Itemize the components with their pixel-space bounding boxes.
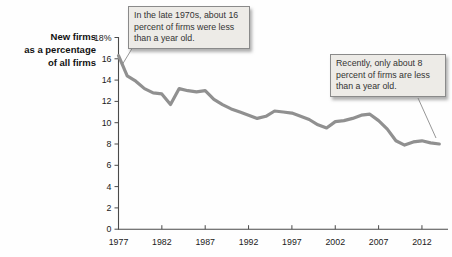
y-tick-label: 6	[107, 160, 112, 170]
x-tick-label: 1982	[152, 237, 172, 247]
y-tick-label: 8	[107, 139, 112, 149]
y-tick-label: 2	[107, 203, 112, 213]
callout-recently: Recently, only about 8 percent of firms …	[330, 54, 446, 97]
y-tick-label: 0	[107, 224, 112, 234]
y-tick-label: 18%	[94, 33, 112, 43]
callout-text: In the late 1970s, about 16 percent of f…	[134, 10, 238, 43]
callout-leader-line	[122, 47, 133, 65]
x-tick-label: 2007	[369, 237, 389, 247]
callout-leader-line	[418, 98, 436, 138]
figure-firm-entry-rate: New firms as a percentage of all firms 0…	[0, 0, 452, 257]
x-tick-label: 1992	[239, 237, 259, 247]
y-tick-label: 12	[102, 96, 112, 106]
callout-text: Recently, only about 8 percent of firms …	[336, 58, 430, 91]
y-tick-label: 10	[102, 118, 112, 128]
x-tick-label: 1977	[109, 237, 129, 247]
y-tick-label: 14	[102, 75, 112, 85]
x-tick-label: 1987	[195, 237, 215, 247]
y-tick-label: 16	[102, 54, 112, 64]
y-tick-label: 4	[107, 182, 112, 192]
x-tick-label: 2002	[325, 237, 345, 247]
x-tick-label: 2012	[412, 237, 432, 247]
x-tick-label: 1997	[282, 237, 302, 247]
callout-late-1970s: In the late 1970s, about 16 percent of f…	[128, 6, 250, 49]
